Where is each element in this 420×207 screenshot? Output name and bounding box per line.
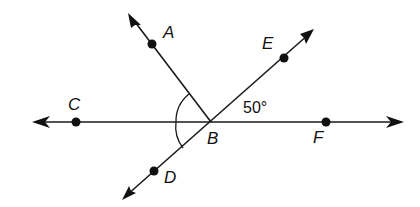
point-c (72, 118, 81, 127)
point-f (322, 118, 331, 127)
angle-label-ebf: 50° (243, 99, 267, 116)
point-a (148, 40, 157, 49)
point-d (150, 167, 159, 176)
arrowhead-a-icon (128, 13, 141, 28)
angle-arc-abc (176, 94, 189, 122)
label-b: B (207, 129, 218, 148)
label-e: E (262, 34, 274, 53)
label-d: D (164, 168, 176, 187)
label-a: A (162, 23, 174, 42)
arrowhead-e-icon (300, 29, 314, 44)
label-c: C (68, 95, 81, 114)
angle-arc-cbd (176, 122, 183, 148)
geometry-diagram: A E C F D B 50° (0, 0, 420, 207)
point-e (280, 54, 289, 63)
label-f: F (313, 128, 325, 147)
line-cf (32, 116, 404, 128)
